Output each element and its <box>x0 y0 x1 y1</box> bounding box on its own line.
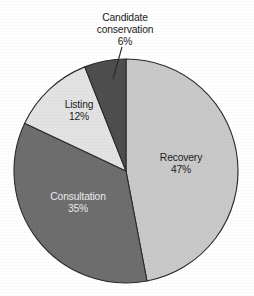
pie-chart-figure: Candidate conservation 6% Listing 12% Re… <box>0 0 254 296</box>
pie-chart-svg <box>0 0 254 296</box>
pie-slice-recovery[interactable] <box>126 59 238 281</box>
